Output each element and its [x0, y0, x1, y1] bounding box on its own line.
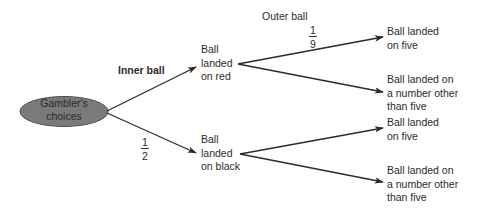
node-black-other: Ball landed on a number other than five: [387, 164, 458, 205]
node-line: landed: [201, 57, 233, 71]
edge-red-to-other: [238, 64, 383, 92]
node-line: on five: [387, 130, 439, 144]
node-line: on black: [201, 160, 240, 174]
node-line: Ball landed: [387, 25, 439, 39]
node-line: than five: [387, 191, 458, 205]
probability-numerator: 1: [307, 25, 319, 35]
probability-black: 1 2: [139, 137, 151, 161]
probability-red-five: 1 9: [307, 25, 319, 49]
node-red-five: Ball landed on five: [387, 25, 439, 52]
probability-numerator: 1: [139, 137, 151, 147]
edge-root-to-black: [107, 113, 196, 153]
node-line: than five: [387, 100, 458, 114]
node-landed-on-black: Ball landed on black: [201, 133, 240, 174]
node-line: Ball landed: [387, 116, 439, 130]
node-red-other: Ball landed on a number other than five: [387, 73, 458, 114]
node-black-five: Ball landed on five: [387, 116, 439, 143]
probability-denominator: 9: [307, 39, 319, 49]
node-line: Ball: [201, 133, 240, 147]
node-line: Ball landed on: [387, 73, 458, 87]
edge-black-to-five: [240, 128, 383, 154]
root-label: Gambler's choices: [20, 97, 108, 123]
stage-label-inner-ball: Inner ball: [118, 64, 165, 78]
node-line: a number other: [387, 178, 458, 192]
edge-black-to-other: [240, 154, 383, 182]
node-line: landed: [201, 147, 240, 161]
probability-denominator: 2: [139, 151, 151, 161]
root-label-line2: choices: [20, 110, 108, 123]
stage-label-outer-ball: Outer ball: [262, 10, 308, 24]
node-line: Ball landed on: [387, 164, 458, 178]
fraction-bar: [141, 148, 149, 149]
fraction-bar: [309, 36, 317, 37]
node-line: on red: [201, 70, 233, 84]
node-line: a number other: [387, 87, 458, 101]
node-line: Ball: [201, 43, 233, 57]
root-label-line1: Gambler's: [20, 97, 108, 110]
node-line: on five: [387, 39, 439, 53]
node-landed-on-red: Ball landed on red: [201, 43, 233, 84]
